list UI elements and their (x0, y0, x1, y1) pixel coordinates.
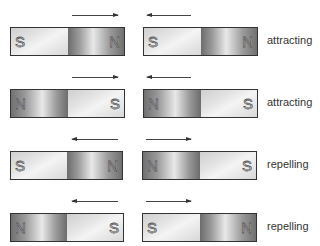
pole-label: N (241, 219, 252, 236)
magnet-row-4: N S S N repelling (0, 201, 320, 246)
south-pole-region: S (144, 28, 201, 55)
south-pole-region: S (201, 90, 258, 117)
south-pole-region: S (143, 214, 200, 241)
south-pole-region: S (11, 28, 68, 55)
arrow-right-icon (146, 201, 191, 203)
pole-label: S (15, 157, 25, 174)
arrow-right-icon (146, 139, 191, 141)
south-pole-region: S (67, 214, 123, 241)
magnet-row-3: S N N S repelling (0, 139, 320, 185)
bar-magnet-right: N S (143, 89, 258, 118)
north-pole-region: N (201, 28, 258, 55)
magnet-row-2: N S N S attracting (0, 77, 320, 123)
bar-magnet-left: N S (10, 213, 124, 242)
pole-label: S (109, 219, 119, 236)
north-pole-region: N (143, 152, 200, 179)
pole-label: N (109, 33, 120, 50)
north-pole-region: N (11, 214, 67, 241)
arrow-left-icon (72, 139, 118, 141)
pole-label: S (243, 95, 253, 112)
arrow-left-icon (72, 201, 118, 203)
arrow-left-icon (147, 77, 191, 79)
pole-label: S (110, 95, 120, 112)
south-pole-region: S (68, 90, 125, 117)
arrow-left-icon (147, 15, 191, 17)
north-pole-region: N (68, 28, 125, 55)
magnet-row-1: S N S N attracting (0, 15, 320, 61)
interaction-label: repelling (267, 220, 309, 232)
pole-label: S (147, 219, 157, 236)
north-pole-region: N (11, 90, 68, 117)
interaction-label: repelling (267, 158, 309, 170)
bar-magnet-left: S N (10, 151, 123, 180)
bar-magnet-right: S N (143, 27, 258, 56)
pole-label: N (15, 95, 26, 112)
pole-label: S (15, 33, 25, 50)
pole-label: N (148, 95, 159, 112)
bar-magnet-right: N S (142, 151, 257, 180)
bar-magnet-left: N S (10, 89, 125, 118)
north-pole-region: N (144, 90, 201, 117)
north-pole-region: N (200, 214, 257, 241)
bar-magnet-right: S N (142, 213, 257, 242)
pole-label: N (107, 157, 118, 174)
south-pole-region: S (11, 152, 67, 179)
arrow-right-icon (72, 77, 118, 79)
north-pole-region: N (67, 152, 123, 179)
arrow-right-icon (72, 15, 118, 17)
interaction-label: attracting (267, 34, 312, 46)
interaction-label: attracting (267, 96, 312, 108)
pole-label: N (147, 157, 158, 174)
pole-label: S (148, 33, 158, 50)
bar-magnet-left: S N (10, 27, 125, 56)
pole-label: S (242, 157, 252, 174)
pole-label: N (15, 219, 26, 236)
south-pole-region: S (200, 152, 257, 179)
pole-label: N (242, 33, 253, 50)
